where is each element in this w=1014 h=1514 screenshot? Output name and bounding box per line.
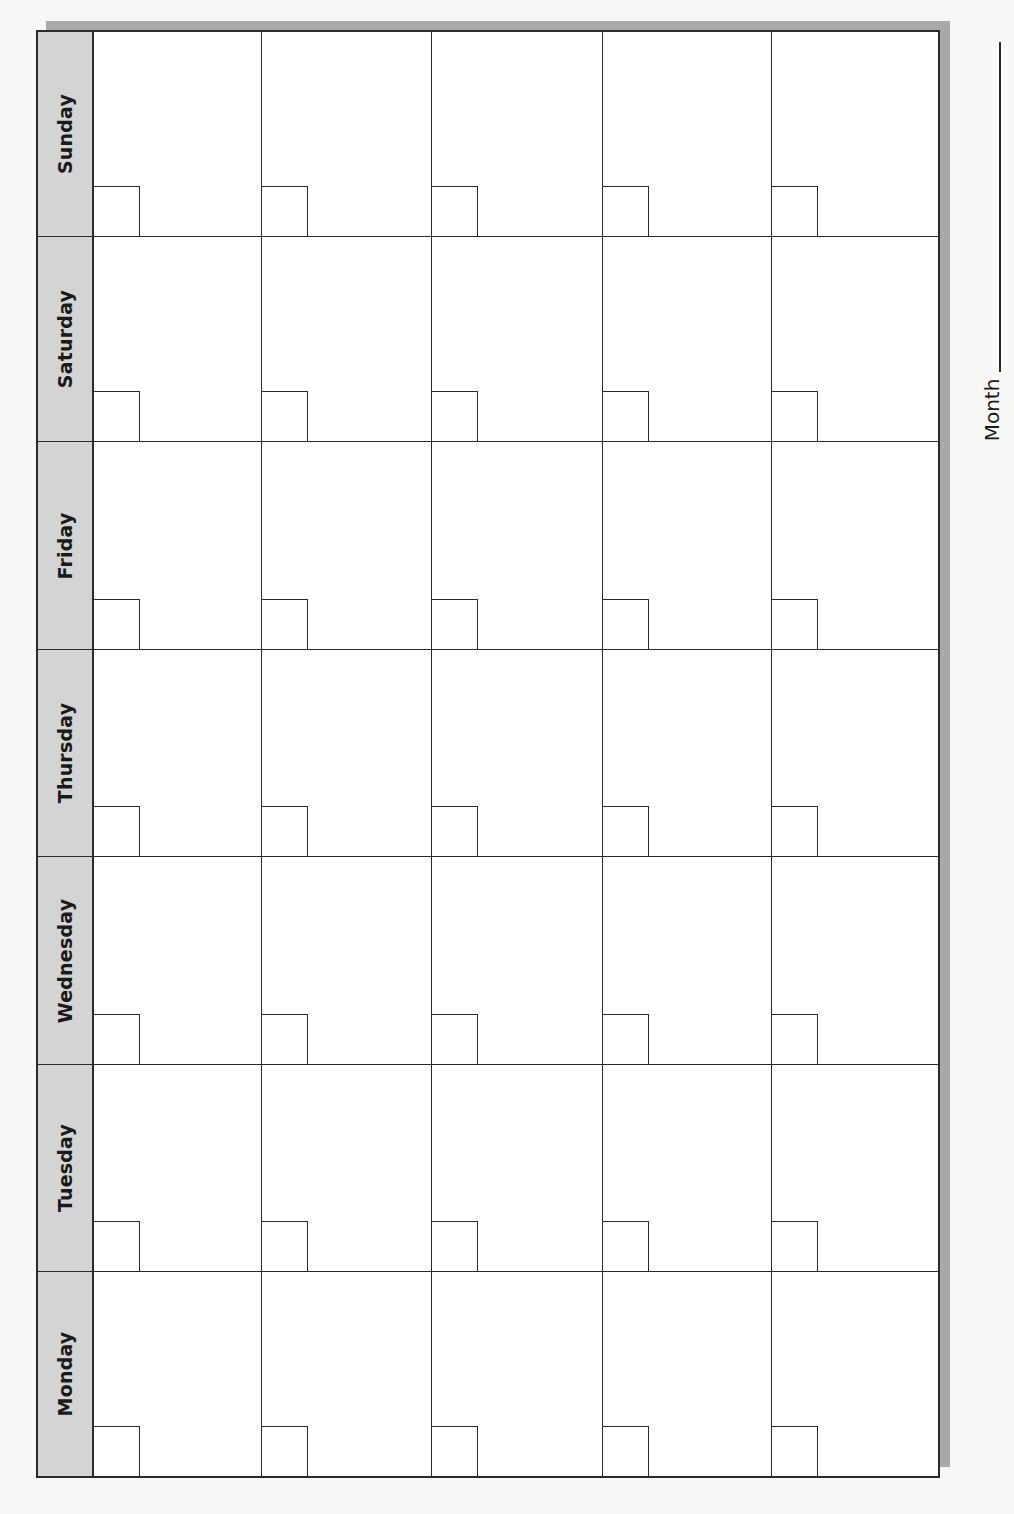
day-cell-week-4-saturday[interactable] — [603, 237, 772, 441]
day-cell-week-3-saturday[interactable] — [432, 237, 603, 441]
day-cell-week-5-sunday[interactable] — [772, 32, 938, 236]
day-cell-week-2-sunday[interactable] — [262, 32, 432, 236]
day-cell-week-5-friday[interactable] — [772, 442, 938, 649]
date-number-box[interactable] — [432, 1014, 478, 1064]
month-label: Month — [980, 379, 1004, 442]
day-label: Friday — [54, 512, 76, 579]
day-row-sunday: Sunday — [38, 32, 938, 237]
day-label: Thursday — [54, 703, 76, 804]
date-number-box[interactable] — [432, 1426, 478, 1476]
day-cell-week-4-tuesday[interactable] — [603, 1065, 772, 1271]
date-number-box[interactable] — [432, 806, 478, 856]
date-number-box[interactable] — [262, 1221, 308, 1271]
date-number-box[interactable] — [772, 186, 818, 236]
date-number-box[interactable] — [603, 1426, 649, 1476]
day-cell-week-3-thursday[interactable] — [432, 650, 603, 856]
date-number-box[interactable] — [603, 806, 649, 856]
day-cell-week-2-wednesday[interactable] — [262, 857, 432, 1064]
date-number-box[interactable] — [432, 391, 478, 441]
day-cell-week-3-tuesday[interactable] — [432, 1065, 603, 1271]
day-cell-week-3-monday[interactable] — [432, 1272, 603, 1476]
day-cell-week-5-tuesday[interactable] — [772, 1065, 938, 1271]
date-number-box[interactable] — [262, 391, 308, 441]
day-header-saturday: Saturday — [38, 237, 94, 441]
date-number-box[interactable] — [94, 1221, 140, 1271]
day-cell-week-5-saturday[interactable] — [772, 237, 938, 441]
day-cell-week-2-saturday[interactable] — [262, 237, 432, 441]
date-number-box[interactable] — [603, 186, 649, 236]
day-cell-week-4-sunday[interactable] — [603, 32, 772, 236]
date-number-box[interactable] — [432, 599, 478, 649]
date-number-box[interactable] — [432, 186, 478, 236]
day-cell-week-5-wednesday[interactable] — [772, 857, 938, 1064]
date-number-box[interactable] — [603, 1221, 649, 1271]
day-cell-week-4-wednesday[interactable] — [603, 857, 772, 1064]
date-number-box[interactable] — [772, 1426, 818, 1476]
date-number-box[interactable] — [94, 1426, 140, 1476]
date-number-box[interactable] — [603, 391, 649, 441]
day-cell-week-3-wednesday[interactable] — [432, 857, 603, 1064]
date-number-box[interactable] — [772, 806, 818, 856]
day-row-monday: Monday — [38, 1272, 938, 1476]
day-cell-week-1-thursday[interactable] — [94, 650, 262, 856]
day-row-friday: Friday — [38, 442, 938, 650]
date-number-box[interactable] — [94, 599, 140, 649]
date-number-box[interactable] — [94, 391, 140, 441]
date-number-box[interactable] — [603, 1014, 649, 1064]
day-cell-week-4-monday[interactable] — [603, 1272, 772, 1476]
day-cell-week-3-sunday[interactable] — [432, 32, 603, 236]
month-field[interactable]: Month — [972, 30, 1012, 450]
day-cell-week-3-friday[interactable] — [432, 442, 603, 649]
day-header-wednesday: Wednesday — [38, 857, 94, 1064]
date-number-box[interactable] — [94, 1014, 140, 1064]
day-cell-week-2-thursday[interactable] — [262, 650, 432, 856]
date-number-box[interactable] — [262, 599, 308, 649]
day-cell-week-1-tuesday[interactable] — [94, 1065, 262, 1271]
day-cell-week-1-saturday[interactable] — [94, 237, 262, 441]
day-label: Monday — [54, 1332, 76, 1417]
date-number-box[interactable] — [262, 1426, 308, 1476]
day-cell-week-2-tuesday[interactable] — [262, 1065, 432, 1271]
day-cell-week-1-monday[interactable] — [94, 1272, 262, 1476]
day-header-tuesday: Tuesday — [38, 1065, 94, 1271]
day-label: Tuesday — [54, 1124, 76, 1212]
day-cell-week-1-friday[interactable] — [94, 442, 262, 649]
day-cell-week-4-thursday[interactable] — [603, 650, 772, 856]
day-header-monday: Monday — [38, 1272, 94, 1476]
day-cell-week-1-wednesday[interactable] — [94, 857, 262, 1064]
day-header-sunday: Sunday — [38, 32, 94, 236]
drop-shadow-right — [940, 21, 950, 1467]
date-number-box[interactable] — [94, 806, 140, 856]
day-cell-week-1-sunday[interactable] — [94, 32, 262, 236]
day-header-friday: Friday — [38, 442, 94, 649]
date-number-box[interactable] — [94, 186, 140, 236]
day-label: Sunday — [54, 94, 76, 174]
date-number-box[interactable] — [772, 1014, 818, 1064]
day-header-thursday: Thursday — [38, 650, 94, 856]
day-cell-week-2-friday[interactable] — [262, 442, 432, 649]
date-number-box[interactable] — [772, 391, 818, 441]
date-number-box[interactable] — [432, 1221, 478, 1271]
date-number-box[interactable] — [262, 806, 308, 856]
date-number-box[interactable] — [603, 599, 649, 649]
day-cell-week-4-friday[interactable] — [603, 442, 772, 649]
day-cell-week-5-thursday[interactable] — [772, 650, 938, 856]
date-number-box[interactable] — [262, 186, 308, 236]
day-row-saturday: Saturday — [38, 237, 938, 442]
day-cell-week-2-monday[interactable] — [262, 1272, 432, 1476]
monthly-calendar-grid: SundaySaturdayFridayThursdayWednesdayTue… — [36, 30, 940, 1478]
day-row-thursday: Thursday — [38, 650, 938, 857]
date-number-box[interactable] — [772, 599, 818, 649]
day-row-wednesday: Wednesday — [38, 857, 938, 1065]
day-label: Wednesday — [54, 898, 76, 1023]
month-write-in-line[interactable] — [999, 42, 1001, 372]
day-cell-week-5-monday[interactable] — [772, 1272, 938, 1476]
date-number-box[interactable] — [772, 1221, 818, 1271]
calendar-page: SundaySaturdayFridayThursdayWednesdayTue… — [0, 0, 1014, 1514]
day-label: Saturday — [54, 290, 76, 388]
date-number-box[interactable] — [262, 1014, 308, 1064]
day-row-tuesday: Tuesday — [38, 1065, 938, 1272]
